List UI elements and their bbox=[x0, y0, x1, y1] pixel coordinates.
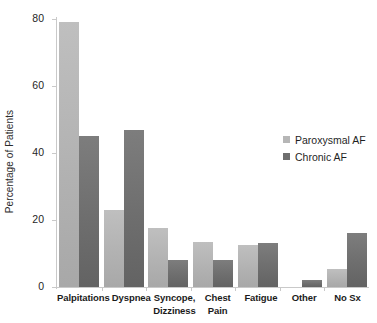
legend-label: Paroxysmal AF bbox=[295, 134, 366, 146]
y-axis-tick-label: 60 bbox=[32, 79, 44, 91]
x-axis-label: Syncope,Dizziness bbox=[153, 292, 196, 317]
legend-item-paroxysmal-af: Paroxysmal AF bbox=[283, 131, 366, 148]
y-axis-tick-label: 0 bbox=[38, 280, 44, 292]
bar-group bbox=[102, 19, 147, 287]
y-axis-tick-label: 20 bbox=[32, 213, 44, 225]
y-axis-tick-label: 80 bbox=[32, 12, 44, 24]
x-axis-line bbox=[56, 287, 369, 288]
bar-group bbox=[191, 19, 236, 287]
y-axis-tick-label: 40 bbox=[32, 146, 44, 158]
bar-group bbox=[146, 19, 191, 287]
x-axis-tick bbox=[146, 287, 147, 291]
x-axis-label: No Sx bbox=[326, 292, 369, 317]
bar bbox=[302, 280, 322, 287]
x-axis-tick bbox=[235, 287, 236, 291]
bar bbox=[104, 210, 124, 287]
bar bbox=[258, 243, 278, 287]
x-axis-tick bbox=[324, 287, 325, 291]
y-axis-tick: 0 bbox=[52, 287, 57, 288]
legend-label: Chronic AF bbox=[295, 151, 347, 163]
x-axis-label: Other bbox=[283, 292, 326, 317]
x-axis-tick bbox=[191, 287, 192, 291]
x-axis-tick bbox=[280, 287, 281, 291]
bar bbox=[347, 233, 367, 287]
y-axis-title: Percentage of Patients bbox=[0, 0, 18, 323]
legend-swatch-icon bbox=[283, 153, 290, 160]
bar bbox=[193, 242, 213, 287]
bar-chart: Percentage of Patients 020406080 Palpita… bbox=[0, 0, 377, 323]
bar bbox=[327, 269, 347, 287]
bar bbox=[238, 245, 258, 287]
bar-group bbox=[235, 19, 280, 287]
bar bbox=[148, 228, 168, 287]
bar bbox=[79, 136, 99, 287]
bar bbox=[168, 260, 188, 287]
legend-item-chronic-af: Chronic AF bbox=[283, 148, 366, 165]
x-axis-label: Fatigue bbox=[239, 292, 282, 317]
chart-legend: Paroxysmal AF Chronic AF bbox=[283, 131, 366, 165]
bar bbox=[213, 260, 233, 287]
bar-group bbox=[57, 19, 102, 287]
x-axis-tick bbox=[102, 287, 103, 291]
x-axis-label: Dyspnea bbox=[110, 292, 153, 317]
bar bbox=[59, 22, 79, 287]
x-axis-labels: PalpitationsDyspneaSyncope,DizzinessChes… bbox=[57, 292, 369, 317]
legend-swatch-icon bbox=[283, 136, 290, 143]
x-axis-label: Palpitations bbox=[57, 292, 110, 317]
bar bbox=[124, 130, 144, 287]
x-axis-label: Chest Pain bbox=[196, 292, 239, 317]
